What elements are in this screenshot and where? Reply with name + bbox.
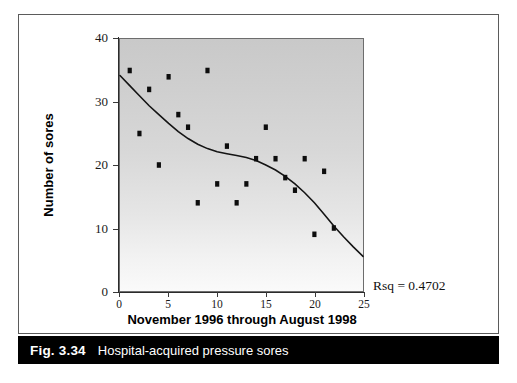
y-axis-tick bbox=[113, 38, 118, 39]
data-point-marker bbox=[157, 162, 161, 168]
data-point-marker bbox=[293, 187, 297, 193]
figure-caption-number: Fig. 3.34 bbox=[30, 343, 86, 358]
x-axis-title: November 1996 through August 1998 bbox=[119, 312, 365, 327]
rsq-annotation: Rsq = 0.4702 bbox=[373, 278, 446, 294]
data-point-marker bbox=[312, 232, 316, 238]
x-axis-tick bbox=[217, 292, 218, 297]
x-axis-line bbox=[118, 292, 365, 293]
data-point-marker bbox=[235, 200, 239, 206]
data-point-marker bbox=[215, 181, 219, 187]
x-axis-tick-label: 0 bbox=[116, 298, 122, 310]
figure-container: 010203040 0510152025 Number of sores Nov… bbox=[0, 0, 517, 383]
y-axis-tick bbox=[113, 102, 118, 103]
y-axis-line bbox=[118, 37, 119, 293]
y-axis-tick bbox=[113, 292, 118, 293]
fitted-curve-group bbox=[120, 76, 363, 257]
data-point-marker bbox=[273, 156, 277, 162]
x-axis-tick bbox=[266, 292, 267, 297]
scatter-marker-group bbox=[128, 68, 336, 237]
y-axis-tick bbox=[113, 165, 118, 166]
x-axis-tick-label: 25 bbox=[358, 298, 370, 310]
y-axis-tick-label: 30 bbox=[95, 94, 108, 110]
x-axis-tick bbox=[315, 292, 316, 297]
figure-caption-bar: Fig. 3.34 Hospital-acquired pressure sor… bbox=[18, 336, 499, 364]
data-point-marker bbox=[283, 175, 287, 181]
x-axis-tick bbox=[168, 292, 169, 297]
x-axis-tick bbox=[364, 292, 365, 297]
x-axis-tick-label: 5 bbox=[165, 298, 171, 310]
fitted-trend-curve bbox=[120, 76, 363, 257]
y-axis-tick bbox=[113, 229, 118, 230]
data-point-marker bbox=[186, 124, 190, 130]
x-axis-tick-label: 20 bbox=[309, 298, 321, 310]
data-point-marker bbox=[254, 156, 258, 162]
figure-caption-text: Hospital-acquired pressure sores bbox=[98, 343, 289, 358]
data-point-marker bbox=[167, 74, 171, 80]
y-axis-tick-label: 40 bbox=[95, 30, 108, 46]
y-axis-tick-label: 20 bbox=[95, 157, 108, 173]
data-point-marker bbox=[128, 68, 132, 74]
y-axis-title: Number of sores bbox=[41, 113, 56, 216]
x-axis-tick-label: 10 bbox=[211, 298, 223, 310]
x-axis-tick bbox=[119, 292, 120, 297]
data-point-marker bbox=[176, 112, 180, 118]
data-point-marker bbox=[137, 131, 141, 137]
data-point-marker bbox=[332, 225, 336, 231]
plot-svg bbox=[120, 39, 363, 291]
data-point-marker bbox=[244, 181, 248, 187]
data-point-marker bbox=[196, 200, 200, 206]
data-point-marker bbox=[303, 156, 307, 162]
plot-area bbox=[119, 38, 364, 292]
data-point-marker bbox=[264, 124, 268, 130]
data-point-marker bbox=[225, 143, 229, 149]
x-axis-tick-label: 15 bbox=[260, 298, 272, 310]
data-point-marker bbox=[147, 87, 151, 93]
data-point-marker bbox=[322, 169, 326, 175]
y-axis-tick-label: 0 bbox=[102, 284, 109, 300]
y-axis-tick-label: 10 bbox=[95, 221, 108, 237]
data-point-marker bbox=[205, 68, 209, 74]
